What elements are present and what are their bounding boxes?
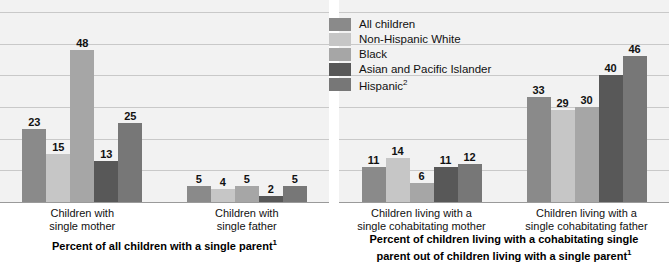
bar-value-label: 23 — [28, 116, 40, 128]
bar-value-label: 30 — [580, 94, 592, 106]
bar-value-label: 14 — [391, 145, 403, 157]
bar-value-label: 4 — [220, 176, 226, 188]
bar: 33 — [527, 97, 551, 202]
bar: 30 — [575, 107, 599, 202]
bar-value-label: 13 — [100, 148, 112, 160]
category-label: Children withsingle mother — [0, 207, 165, 233]
bar-slot: 46 — [623, 0, 647, 202]
bar-value-label: 5 — [244, 173, 250, 185]
bar-value-label: 48 — [76, 37, 88, 49]
legend-label: Asian and Pacific Islander — [359, 63, 491, 76]
category-label: Children living with asingle cohabitatin… — [339, 207, 504, 233]
bar-slot: 40 — [599, 0, 623, 202]
legend-swatch-icon — [329, 48, 351, 61]
chart-panel-left: 231548132554525 — [0, 0, 329, 203]
bar: 5 — [283, 186, 307, 202]
bar-value-label: 5 — [196, 173, 202, 185]
bar: 29 — [551, 110, 575, 202]
legend-swatch-icon — [329, 33, 351, 46]
bar-slot: 2 — [259, 0, 283, 202]
category-label: Children withsingle father — [165, 207, 330, 233]
bar-slot: 48 — [70, 0, 94, 202]
legend-label: Black — [359, 48, 387, 61]
bar: 4 — [211, 189, 235, 202]
bar-slot: 5 — [235, 0, 259, 202]
legend-swatch-icon — [329, 18, 351, 31]
panel-caption-right: Percent of children living with a cohabi… — [339, 233, 669, 263]
bar: 11 — [362, 167, 386, 202]
bar-slot: 4 — [211, 0, 235, 202]
legend-swatch-icon — [329, 63, 351, 76]
legend-label: All children — [359, 18, 415, 31]
category-labels-left: Children withsingle motherChildren withs… — [0, 207, 329, 233]
chart-root: 231548132554525 1114611123329304046 All … — [0, 0, 669, 268]
bar-value-label: 6 — [418, 170, 424, 182]
bar-value-label: 11 — [368, 154, 380, 166]
panel-caption-left: Percent of all children with a single pa… — [0, 236, 329, 253]
bar: 11 — [434, 167, 458, 202]
bar: 25 — [118, 123, 142, 202]
bar: 14 — [386, 158, 410, 202]
legend-label: Non-Hispanic White — [359, 33, 461, 46]
bar-value-label: 5 — [292, 173, 298, 185]
bar-value-label: 46 — [628, 43, 640, 55]
bar-slot: 30 — [575, 0, 599, 202]
legend-label: Hispanic2 — [359, 76, 408, 93]
bar: 5 — [235, 186, 259, 202]
legend-footnote-marker: 2 — [403, 78, 407, 87]
bar-value-label: 25 — [124, 110, 136, 122]
bar-group: 2315481325 — [0, 0, 165, 202]
category-label: Children living with asingle cohabitatin… — [504, 207, 669, 233]
legend-item[interactable]: Asian and Pacific Islander — [329, 62, 539, 77]
caption-footnote-marker: 1 — [273, 238, 277, 247]
bar-slot: 15 — [46, 0, 70, 202]
bar-slot: 13 — [94, 0, 118, 202]
legend-item[interactable]: Hispanic2 — [329, 77, 539, 92]
bar: 48 — [70, 50, 94, 202]
legend-item[interactable]: Non-Hispanic White — [329, 32, 539, 47]
bar-value-label: 12 — [463, 151, 475, 163]
bar-value-label: 11 — [440, 154, 452, 166]
bar: 13 — [94, 161, 118, 202]
bar: 46 — [623, 56, 647, 202]
category-labels-right: Children living with asingle cohabitatin… — [339, 207, 669, 233]
bar-group: 54525 — [165, 0, 330, 202]
bar-value-label: 40 — [604, 62, 616, 74]
legend-item[interactable]: Black — [329, 47, 539, 62]
axis-baseline-right — [339, 202, 669, 203]
bar-groups-left: 231548132554525 — [0, 0, 329, 202]
bar: 12 — [458, 164, 482, 202]
bar: 15 — [46, 154, 70, 202]
legend-item[interactable]: All children — [329, 17, 539, 32]
bar-slot: 29 — [551, 0, 575, 202]
bar-value-label: 2 — [268, 183, 274, 195]
bar-slot: 25 — [118, 0, 142, 202]
bar: 5 — [187, 186, 211, 202]
bar: 6 — [410, 183, 434, 202]
bar-slot: 5 — [187, 0, 211, 202]
bar: 23 — [22, 129, 46, 202]
legend-swatch-icon — [329, 78, 351, 91]
bar-value-label: 29 — [556, 97, 568, 109]
bar-slot: 23 — [22, 0, 46, 202]
bar-value-label: 15 — [52, 141, 64, 153]
axis-baseline-left — [0, 202, 329, 203]
chart-legend: All childrenNon-Hispanic WhiteBlackAsian… — [329, 17, 539, 92]
bar-slot: 5 — [283, 0, 307, 202]
bar: 40 — [599, 75, 623, 202]
caption-footnote-marker: 1 — [627, 248, 631, 257]
